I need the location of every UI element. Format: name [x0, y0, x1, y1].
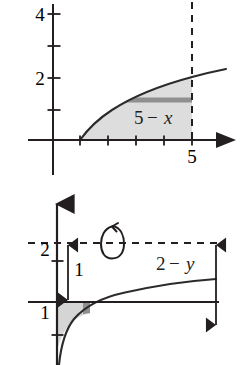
figure-stack: 4 2 5 5 − x: [0, 0, 241, 365]
measure-label-2-minus-y: 2 − y: [156, 253, 195, 274]
y-tick-label-4: 4: [35, 4, 45, 25]
y-tick-label-2: 2: [35, 68, 45, 89]
measure-label-1: 1: [74, 259, 84, 280]
bottom-figure: 2 1 1 2 − y: [0, 182, 241, 365]
strip-label-minus: −: [147, 107, 158, 128]
top-figure: 4 2 5 5 − x: [0, 0, 241, 182]
measure-label-two: 2: [156, 253, 166, 274]
measure-label-y: y: [184, 253, 195, 274]
strip-label-5: 5: [134, 107, 144, 128]
measure-label-minus: −: [169, 253, 180, 274]
y-tick-label-1-bottom: 1: [40, 302, 50, 323]
x-tick-label-5: 5: [187, 146, 197, 167]
curve-sqrt-bottom: [59, 279, 216, 365]
strip-label-x: x: [163, 107, 173, 128]
y-tick-label-2-bottom: 2: [40, 239, 50, 260]
rotation-arrow-icon: [101, 223, 124, 259]
strip-label-5-minus-x: 5 − x: [134, 107, 173, 128]
